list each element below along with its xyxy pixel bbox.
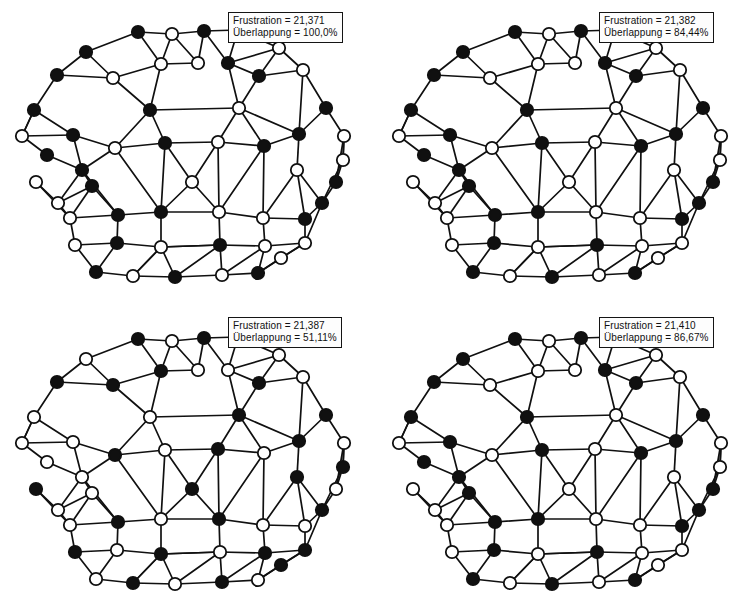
- graph-node: [51, 69, 63, 81]
- graph-node: [635, 140, 647, 152]
- graph-node: [330, 483, 342, 495]
- graph-node: [144, 411, 156, 423]
- graph-node: [299, 213, 311, 225]
- figure-root: Frustration = 21,371 Überlappung = 100,0…: [0, 0, 754, 614]
- graph-node: [127, 577, 139, 589]
- graph-node: [707, 483, 719, 495]
- graph-node: [610, 102, 622, 114]
- graph-node: [569, 57, 581, 69]
- graph-node: [155, 58, 167, 70]
- graph-node: [591, 239, 603, 251]
- graph-node: [575, 332, 587, 344]
- graph-node: [216, 576, 228, 588]
- graph-node: [76, 164, 88, 176]
- graph-edge: [161, 245, 220, 247]
- graph-edge: [527, 108, 616, 110]
- graph-node: [155, 513, 167, 525]
- graph-node: [444, 129, 456, 141]
- graph-edge: [552, 245, 597, 277]
- graph-edge: [297, 170, 305, 219]
- graph-node: [316, 504, 328, 516]
- graph-node: [630, 377, 642, 389]
- graph-node: [630, 70, 642, 82]
- graph-node: [707, 176, 719, 188]
- graph-edge: [674, 477, 682, 526]
- graph-node: [521, 411, 533, 423]
- graph-edge: [463, 339, 515, 359]
- graph-node: [418, 149, 430, 161]
- graph-edge: [115, 455, 161, 519]
- graph-node: [714, 154, 726, 166]
- graph-node: [213, 513, 225, 525]
- graph-node: [64, 519, 76, 531]
- graph-node: [463, 487, 475, 499]
- graph-edge: [22, 442, 73, 443]
- graph-node: [253, 70, 265, 82]
- graph-edge: [492, 455, 538, 519]
- graph-node: [405, 411, 417, 423]
- graph-edge: [447, 522, 495, 525]
- graph-node: [316, 197, 328, 209]
- graph-edge: [538, 245, 597, 247]
- graph-node: [86, 487, 98, 499]
- graph-svg-2: [377, 0, 754, 307]
- graph-node: [444, 436, 456, 448]
- graph-panel-4: Frustration = 21,410 Überlappung = 86,67…: [377, 307, 754, 614]
- graph-node: [111, 544, 123, 556]
- graph-node: [593, 576, 605, 588]
- graph-edge: [542, 143, 569, 182]
- graph-edge: [640, 170, 674, 218]
- stats-label-2: Frustration = 21,382 Überlappung = 84,44…: [599, 12, 714, 43]
- graph-node: [86, 180, 98, 192]
- graph-edge: [542, 142, 595, 143]
- graph-node: [418, 456, 430, 468]
- graph-node: [52, 197, 64, 209]
- frustration-line-3: Frustration = 21,387: [233, 320, 337, 332]
- graph-edge: [542, 449, 595, 450]
- graph-edge: [492, 110, 527, 148]
- graph-node: [257, 519, 269, 531]
- graph-edge: [463, 32, 515, 52]
- graph-node: [41, 149, 53, 161]
- graph-node: [715, 130, 727, 142]
- graph-node: [212, 443, 224, 455]
- graph-node: [488, 237, 500, 249]
- graph-edge: [492, 148, 538, 212]
- graph-edge: [490, 78, 527, 110]
- graph-edge: [299, 70, 303, 134]
- frustration-line-1: Frustration = 21,371: [233, 15, 338, 27]
- graph-edge: [447, 215, 495, 218]
- graph-node: [486, 449, 498, 461]
- graph-edge: [640, 477, 674, 525]
- graph-edge: [150, 108, 239, 110]
- graph-node: [543, 335, 555, 347]
- graph-node: [393, 437, 405, 449]
- graph-node: [593, 269, 605, 281]
- graph-node: [546, 578, 558, 590]
- graph-node: [693, 504, 705, 516]
- graph-node: [589, 443, 601, 455]
- overlap-line-3: Überlappung = 51,11%: [233, 332, 337, 344]
- graph-node: [186, 176, 198, 188]
- graph-node: [429, 504, 441, 516]
- graph-node: [532, 365, 544, 377]
- graph-edge: [161, 552, 220, 554]
- graph-edge: [165, 143, 192, 182]
- graph-node: [676, 213, 688, 225]
- graph-edge: [70, 215, 118, 218]
- graph-edge: [299, 377, 303, 441]
- stats-label-1: Frustration = 21,371 Überlappung = 100,0…: [228, 12, 343, 43]
- graph-node: [214, 546, 226, 558]
- graph-edge: [569, 449, 595, 489]
- graph-node: [127, 270, 139, 282]
- graph-edge: [218, 449, 219, 519]
- graph-node: [532, 58, 544, 70]
- graph-node: [41, 456, 53, 468]
- graph-panel-3: Frustration = 21,387 Überlappung = 51,11…: [0, 307, 377, 614]
- graph-node: [166, 335, 178, 347]
- graph-node: [198, 25, 210, 37]
- graph-node: [107, 72, 119, 84]
- graph-edge: [175, 245, 220, 277]
- graph-node: [275, 559, 287, 571]
- graph-node: [467, 573, 479, 585]
